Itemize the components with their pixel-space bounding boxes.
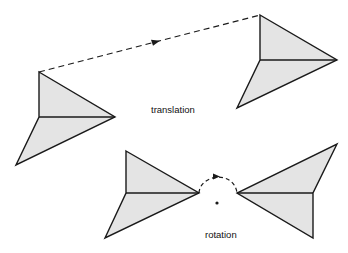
rotation-original-shape	[105, 151, 199, 238]
arrowhead-icon	[151, 40, 160, 46]
rotation-arc	[199, 174, 237, 205]
rotation-result-shape	[237, 144, 337, 238]
diagram-canvas	[0, 0, 348, 253]
rotation-center-dot	[215, 201, 218, 204]
translation-result-shape	[237, 15, 337, 108]
transformation-diagram: translation rotation	[0, 0, 348, 253]
arrowhead-icon	[213, 174, 220, 180]
translation-label: translation	[151, 104, 195, 115]
translation-path	[39, 15, 260, 72]
translation-original-shape	[16, 72, 115, 165]
rotation-label: rotation	[205, 229, 237, 240]
